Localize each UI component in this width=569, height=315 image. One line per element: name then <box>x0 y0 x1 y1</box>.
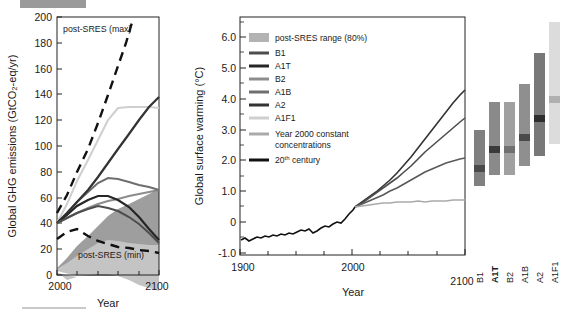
left-xtick-2000: 2000 <box>48 280 72 292</box>
right-xtick-2100: 2100 <box>450 275 474 287</box>
series-20th-century <box>241 207 355 241</box>
right-ytick-0: 0 <box>230 216 236 228</box>
series-post-sres-max <box>57 19 133 213</box>
left-ytick-180: 180 <box>34 37 52 49</box>
right-ytick-3: 3.0 <box>221 124 236 136</box>
figure-ipcc-scenarios: 200 180 160 140 120 100 80 60 40 20 0 20… <box>0 0 569 315</box>
left-y-axis-label: Global GHG emissions (GtCO₂-eq/yr) <box>6 55 18 238</box>
legend-20th-century-word: century <box>290 155 321 165</box>
best-estimate-a1b <box>519 134 530 141</box>
right-ytick-1: 1.0 <box>221 185 236 197</box>
bar-label-a1f1: A1F1 <box>550 261 560 283</box>
best-estimate-a1f1 <box>549 96 560 103</box>
legend-year-2000-constant-label: Year 2000 constant <box>275 129 349 139</box>
left-ytick-80: 80 <box>40 166 52 178</box>
post-sres-max-label: post-SRES (max) <box>63 24 132 34</box>
legend-post-sres-range-label: post-SRES range (80%) <box>275 33 367 43</box>
range-bar-labels: B1 A1T B2 A1B A2 A1F1 <box>475 261 560 283</box>
range-bar-a1b <box>519 84 530 166</box>
right-x-axis-label: Year <box>342 286 365 298</box>
legend-a1f1-label: A1F1 <box>275 113 296 123</box>
legend-b2-label: B2 <box>275 74 286 84</box>
range-bar-a1t <box>489 102 500 175</box>
right-ytick-2: 2.0 <box>221 154 236 166</box>
series-b1-warming <box>355 158 465 207</box>
series-a2-warming <box>355 90 465 207</box>
legend-20th-century-num: 20 <box>275 155 285 165</box>
right-y-axis-label: Global surface warming (°C) <box>193 67 205 205</box>
bar-label-a2: A2 <box>535 272 545 283</box>
range-bar-b1 <box>474 130 485 186</box>
right-x-ticks <box>240 249 465 255</box>
legend-a1b-label: A1B <box>275 87 292 97</box>
right-xtick-2000: 2000 <box>341 261 365 273</box>
right-ytick-4: 4.0 <box>221 93 236 105</box>
legend-20th-century-label: 20th century <box>275 155 321 165</box>
right-ytick-neg1: -1.0 <box>218 247 236 259</box>
best-estimate-a2 <box>534 115 545 122</box>
bar-label-a1t: A1T <box>490 265 500 283</box>
best-estimate-a1t <box>489 146 500 153</box>
left-y-tick-labels: 200 180 160 140 120 100 80 60 40 20 0 <box>34 11 52 281</box>
post-sres-min-label: post-SRES (min) <box>78 250 144 260</box>
right-x-tick-labels: 1900 2000 2100 <box>231 261 474 287</box>
bar-label-a1b: A1B <box>520 266 530 283</box>
right-ytick-5: 5.0 <box>221 62 236 74</box>
left-x-axis-label: Year <box>97 297 120 309</box>
left-ytick-120: 120 <box>34 114 52 126</box>
inner-range-band <box>57 240 159 291</box>
left-x-tick-labels: 2000 2100 <box>48 280 169 292</box>
right-ytick-6: 6.0 <box>221 31 236 43</box>
left-panel: 200 180 160 140 120 100 80 60 40 20 0 20… <box>6 11 169 309</box>
left-xtick-2100: 2100 <box>145 280 169 292</box>
range-bar-a2 <box>534 53 545 156</box>
right-panel: 6.0 5.0 4.0 3.0 2.0 1.0 0 -1.0 1900 2000… <box>193 17 474 298</box>
figure-svg: 200 180 160 140 120 100 80 60 40 20 0 20… <box>0 0 569 315</box>
range-bar-a1f1 <box>549 22 560 144</box>
bar-label-b1: B1 <box>475 272 485 283</box>
left-ytick-20: 20 <box>40 243 52 255</box>
left-ytick-100: 100 <box>34 140 52 152</box>
right-plot-frame <box>240 17 465 255</box>
legend-a1t-label: A1T <box>275 61 292 71</box>
legend-a2-label: A2 <box>275 100 286 110</box>
best-estimate-b2 <box>504 146 515 153</box>
series-year-2000-constant <box>355 200 465 207</box>
bar-label-b2: B2 <box>505 272 515 283</box>
legend-b1-label: B1 <box>275 48 286 58</box>
right-panel-legend: post-SRES range (80%) B1 A1T B2 A1B A2 A… <box>249 33 367 165</box>
range-bar-b2 <box>504 102 515 175</box>
left-ytick-160: 160 <box>34 63 52 75</box>
right-y-tick-labels: 6.0 5.0 4.0 3.0 2.0 1.0 0 -1.0 <box>218 31 236 259</box>
left-ytick-200: 200 <box>34 11 52 23</box>
left-ytick-60: 60 <box>40 192 52 204</box>
left-ytick-40: 40 <box>40 217 52 229</box>
legend-post-sres-range-swatch <box>249 33 269 42</box>
left-ytick-140: 140 <box>34 88 52 100</box>
right-xtick-1900: 1900 <box>231 261 255 273</box>
best-estimate-b1 <box>474 165 485 172</box>
warming-range-bars: B1 A1T B2 A1B A2 A1F1 <box>474 22 560 283</box>
legend-year-2000-constant-label2: concentrations <box>275 140 331 150</box>
